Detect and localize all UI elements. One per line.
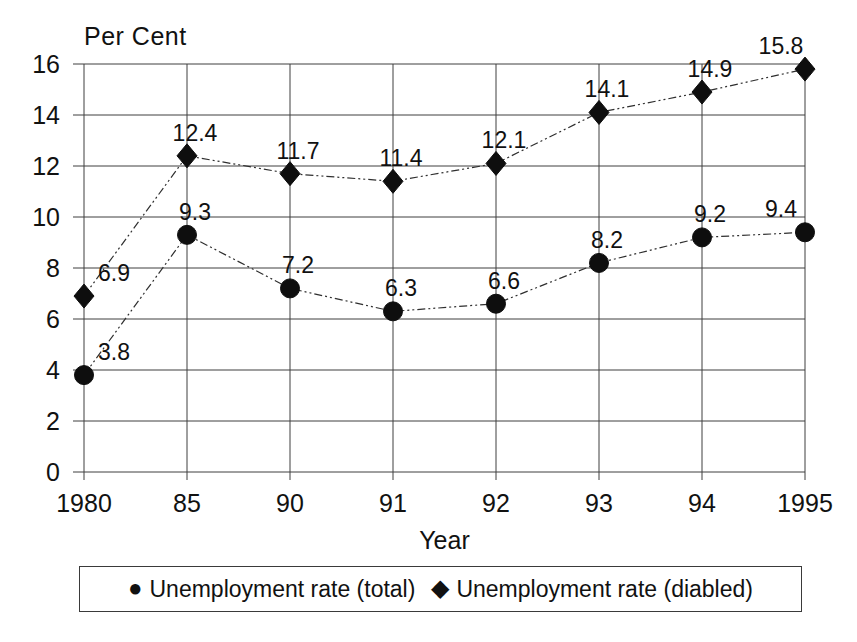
y-tick-label: 6	[46, 305, 60, 333]
legend-item-disabled: ◆ Unemployment rate (diabled)	[431, 576, 753, 603]
y-tick-label: 14	[32, 101, 60, 129]
x-tick-label: 1995	[777, 489, 833, 517]
data-point-total	[178, 225, 197, 244]
data-label-disabled: 14.1	[585, 76, 630, 102]
plot-area: 0246810121416198085909192939419953.89.37…	[0, 0, 857, 560]
x-tick-label: 91	[379, 489, 407, 517]
data-label-total: 6.3	[385, 275, 417, 301]
data-label-total: 9.4	[765, 196, 797, 222]
circle-marker-icon: ●	[128, 576, 143, 600]
x-tick-label: 85	[173, 489, 201, 517]
diamond-marker-icon: ◆	[431, 576, 449, 600]
data-label-disabled: 11.4	[379, 145, 422, 171]
unemployment-rate-chart: Per Cent 0246810121416198085909192939419…	[0, 0, 857, 642]
data-point-disabled	[589, 100, 609, 124]
x-tick-label: 1980	[56, 489, 112, 517]
data-point-disabled	[383, 169, 403, 193]
data-point-total	[796, 223, 815, 242]
data-label-total: 8.2	[591, 227, 623, 253]
data-point-disabled	[177, 144, 197, 168]
y-tick-label: 10	[32, 203, 60, 231]
y-tick-label: 2	[46, 407, 60, 435]
data-label-total: 6.6	[488, 268, 520, 294]
x-tick-label: 94	[688, 489, 716, 517]
data-label-disabled: 15.8	[759, 33, 804, 59]
y-tick-label: 4	[46, 356, 60, 384]
legend: ● Unemployment rate (total) ◆ Unemployme…	[79, 566, 802, 612]
data-point-total	[487, 294, 506, 313]
data-point-disabled	[486, 151, 506, 175]
x-axis-title: Year	[84, 526, 805, 555]
data-point-disabled	[692, 80, 712, 104]
x-tick-label: 90	[276, 489, 304, 517]
data-point-total	[75, 366, 94, 385]
data-label-disabled: 14.9	[688, 56, 733, 82]
x-tick-label: 92	[482, 489, 510, 517]
data-label-total: 3.8	[98, 339, 130, 365]
data-label-total: 7.2	[282, 252, 314, 278]
data-label-total: 9.3	[179, 199, 211, 225]
data-label-disabled: 6.9	[98, 260, 130, 286]
x-tick-label: 93	[585, 489, 613, 517]
series-line-total	[84, 232, 805, 375]
data-label-disabled: 12.4	[173, 120, 218, 146]
data-label-disabled: 12.1	[482, 127, 527, 153]
data-point-disabled	[74, 284, 94, 308]
data-label-disabled: 11.7	[276, 138, 319, 164]
data-point-total	[693, 228, 712, 247]
data-point-disabled	[795, 57, 815, 81]
y-tick-label: 8	[46, 254, 60, 282]
y-tick-label: 0	[46, 458, 60, 486]
legend-label-disabled: Unemployment rate (diabled)	[456, 576, 753, 603]
legend-label-total: Unemployment rate (total)	[150, 576, 416, 603]
data-point-total	[281, 279, 300, 298]
series-line-disabled	[84, 69, 805, 296]
y-tick-label: 12	[32, 152, 60, 180]
data-point-total	[590, 253, 609, 272]
data-point-disabled	[280, 162, 300, 186]
data-point-total	[384, 302, 403, 321]
legend-item-total: ● Unemployment rate (total)	[128, 576, 415, 603]
y-tick-label: 16	[32, 50, 60, 78]
data-label-total: 9.2	[694, 201, 726, 227]
